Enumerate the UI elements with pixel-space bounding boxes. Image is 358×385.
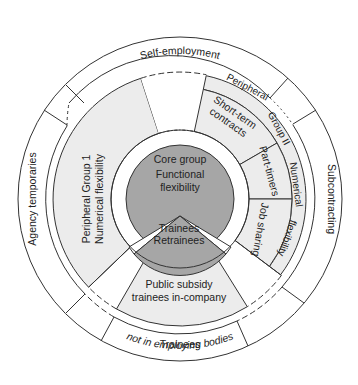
svg-text:trainees in-company: trainees in-company <box>132 291 227 303</box>
svg-text:Retrainees: Retrainees <box>154 234 205 246</box>
self-employment-label: Self-employment <box>139 44 222 61</box>
peripheral-group-1-label: Peripheral Group 1 Numerical flexibility <box>80 153 105 244</box>
svg-text:flexibility: flexibility <box>160 181 200 193</box>
svg-text:Core group: Core group <box>154 153 207 165</box>
svg-text:Functional: Functional <box>156 168 204 180</box>
svg-text:Peripheral Group 1: Peripheral Group 1 <box>80 154 92 243</box>
svg-text:Trainees: Trainees <box>159 222 199 234</box>
agency-temporaries-label: Agency temporaries <box>26 152 38 245</box>
trainees-not-in-employing-label: not in employing bodies <box>125 329 235 351</box>
flexible-firm-diagram: Self-employment Subcontracting Agency te… <box>0 0 358 385</box>
core-group <box>111 130 249 275</box>
svg-text:Public subsidy: Public subsidy <box>145 278 213 290</box>
svg-text:Numerical flexibility: Numerical flexibility <box>93 153 105 244</box>
subcontracting-label: Subcontracting <box>326 164 338 234</box>
